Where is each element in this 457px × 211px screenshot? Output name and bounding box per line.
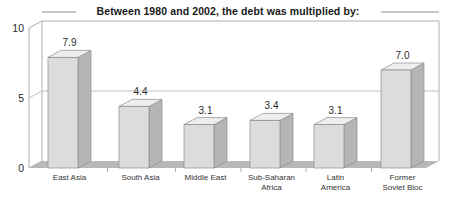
- y-tick-5: 5: [18, 92, 24, 104]
- category-label: Sub-Saharan: [248, 173, 295, 182]
- bar-side-face: [214, 118, 227, 168]
- bar-value-label: 4.4: [134, 86, 148, 97]
- bar-value-label: 7.9: [63, 37, 77, 48]
- y-tick-10: 10: [12, 22, 24, 34]
- category-label: Soviet Bloc: [382, 183, 422, 192]
- depth-edge-top: [29, 21, 42, 28]
- category-label: Latin: [327, 173, 344, 182]
- bar-column: [184, 118, 227, 168]
- y-tick-0: 0: [18, 162, 24, 174]
- bar-column: [48, 50, 91, 168]
- chart-floor: [29, 161, 439, 168]
- category-labels: East AsiaSouth AsiaMiddle EastSub-Sahara…: [53, 173, 423, 192]
- category-ticks: [108, 168, 372, 172]
- bar-value-label: 3.1: [329, 105, 343, 116]
- bar-value-label: 7.0: [396, 50, 410, 61]
- chart-container: 10 5 0 Between 1980 and 2002, the debt w…: [0, 0, 457, 211]
- bars-layer: 7.94.43.13.43.17.0: [48, 37, 424, 168]
- page-title: Between 1980 and 2002, the debt was mult…: [97, 5, 360, 17]
- bar-side-face: [344, 118, 357, 168]
- chart-title-group: Between 1980 and 2002, the debt was mult…: [97, 5, 360, 17]
- bar-side-face: [78, 50, 91, 168]
- bar-side-face: [280, 113, 293, 168]
- bar-front-face: [119, 106, 149, 168]
- bar-front-face: [381, 70, 411, 168]
- category-label: Former: [390, 173, 416, 182]
- bar-front-face: [250, 120, 280, 168]
- y-axis-ticks: 10 5 0: [12, 22, 24, 174]
- category-label: America: [321, 183, 351, 192]
- floor-plane: [29, 161, 439, 168]
- gridline-5-depth: [29, 91, 42, 98]
- bar-column: [250, 113, 293, 168]
- bar-column: [381, 63, 424, 168]
- category-label: South Asia: [121, 173, 160, 182]
- bar-front-face: [184, 125, 214, 168]
- category-label: Africa: [261, 183, 282, 192]
- bar-side-face: [411, 63, 424, 168]
- bar-side-face: [149, 99, 162, 168]
- bar-front-face: [48, 57, 78, 168]
- bar-front-face: [314, 125, 344, 168]
- bar-column: [119, 99, 162, 168]
- category-label: Middle East: [185, 173, 228, 182]
- bar-chart-3d: 10 5 0 Between 1980 and 2002, the debt w…: [0, 0, 457, 211]
- bar-value-label: 3.4: [265, 100, 279, 111]
- bar-column: [314, 118, 357, 168]
- category-label: East Asia: [53, 173, 87, 182]
- bar-value-label: 3.1: [199, 105, 213, 116]
